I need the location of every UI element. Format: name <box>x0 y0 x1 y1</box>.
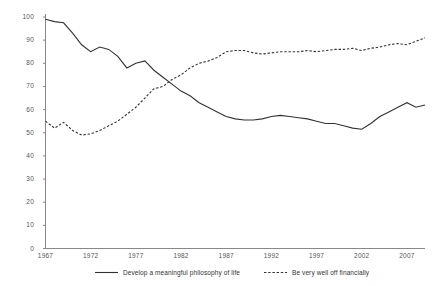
x-tick-label: 1987 <box>206 252 246 259</box>
x-tick-label: 2007 <box>387 252 427 259</box>
y-tick-label: 0 <box>12 245 34 252</box>
y-tick-label: 90 <box>12 36 34 43</box>
x-tick-label: 1977 <box>116 252 156 259</box>
y-tick-label: 40 <box>12 152 34 159</box>
y-tick-label: 30 <box>12 175 34 182</box>
y-tick-label: 100 <box>12 13 34 20</box>
x-tick-label: 1967 <box>26 252 66 259</box>
x-tick-label: 1992 <box>251 252 291 259</box>
x-tick-label: 1997 <box>297 252 337 259</box>
series-line-philosophy <box>46 19 426 129</box>
y-tick-label: 80 <box>12 59 34 66</box>
chart-container: 0102030405060708090100 19671972197719821… <box>0 0 432 286</box>
x-tick-label: 1982 <box>161 252 201 259</box>
y-tick-label: 20 <box>12 198 34 205</box>
legend-label-financial: Be very well off financially <box>292 269 369 276</box>
chart-plot-svg <box>0 0 432 286</box>
x-tick-label: 1972 <box>71 252 111 259</box>
legend-label-philosophy: Develop a meaningful philosophy of life <box>123 269 240 276</box>
y-tick-label: 50 <box>12 129 34 136</box>
y-tick-label: 60 <box>12 106 34 113</box>
series-group <box>46 19 426 135</box>
y-tick-label: 10 <box>12 221 34 228</box>
y-tick-label: 70 <box>12 82 34 89</box>
x-tick-label: 2002 <box>342 252 382 259</box>
series-line-financial <box>46 38 426 135</box>
